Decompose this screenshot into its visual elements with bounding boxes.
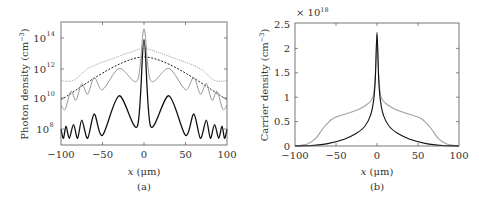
carrier-density-curves xyxy=(295,32,459,146)
svg-text:8: 8 xyxy=(50,121,54,129)
plot-b-xlabel: x (μm) xyxy=(361,166,394,177)
plot-b-ylabel: Carrier density (cm−3) xyxy=(258,29,270,142)
xtick-label: 0 xyxy=(141,149,147,160)
panel-b-caption: (b) xyxy=(370,181,384,192)
series-line xyxy=(61,40,227,139)
ytick-label: 2 xyxy=(284,43,290,54)
xtick-label: 100 xyxy=(449,150,468,161)
xtick-label: 50 xyxy=(412,150,425,161)
y-multiplier: × 1018 xyxy=(296,6,329,18)
xtick-label: 50 xyxy=(179,149,192,160)
xtick-label: −50 xyxy=(92,149,113,160)
panel-a-caption: (a) xyxy=(137,181,151,192)
series-line xyxy=(61,49,227,82)
panel-a: −100 −50 0 50 100 1014 1012 1010 108 Pho… xyxy=(18,22,237,192)
svg-text:14: 14 xyxy=(47,30,55,38)
ytick-label: 0.5 xyxy=(274,116,290,127)
svg-text:10: 10 xyxy=(36,124,49,135)
ytick-10e10: 1010 xyxy=(33,90,55,104)
ytick-10e8: 108 xyxy=(36,121,53,135)
photon-density-curves xyxy=(61,29,227,138)
ytick-label: 1.5 xyxy=(274,67,290,78)
series-line xyxy=(295,32,459,146)
ytick-10e12: 1012 xyxy=(33,61,55,75)
svg-text:10: 10 xyxy=(33,33,46,44)
series-line xyxy=(295,34,459,146)
ytick-label: 2.5 xyxy=(274,19,290,30)
svg-text:10: 10 xyxy=(47,90,55,98)
xtick-label: 100 xyxy=(217,149,236,160)
ytick-label: 0 xyxy=(284,141,290,152)
plot-a-xlabel: x (μm) xyxy=(128,166,161,177)
xtick-label: −50 xyxy=(325,150,346,161)
ytick-label: 1 xyxy=(284,92,290,103)
xtick-label: −100 xyxy=(47,149,74,160)
figure: −100 −50 0 50 100 1014 1012 1010 108 Pho… xyxy=(0,0,479,201)
ytick-10e14: 1014 xyxy=(33,30,55,44)
xtick-label: −100 xyxy=(281,150,308,161)
xtick-label: 0 xyxy=(374,150,380,161)
svg-text:12: 12 xyxy=(47,61,55,69)
svg-text:10: 10 xyxy=(33,64,46,75)
svg-text:10: 10 xyxy=(33,93,46,104)
plot-a-ylabel: Photon density (cm−3) xyxy=(18,28,30,139)
panel-b: −100 −50 0 50 100 2.5 2 1.5 1 0.5 0 × 10… xyxy=(258,6,469,192)
